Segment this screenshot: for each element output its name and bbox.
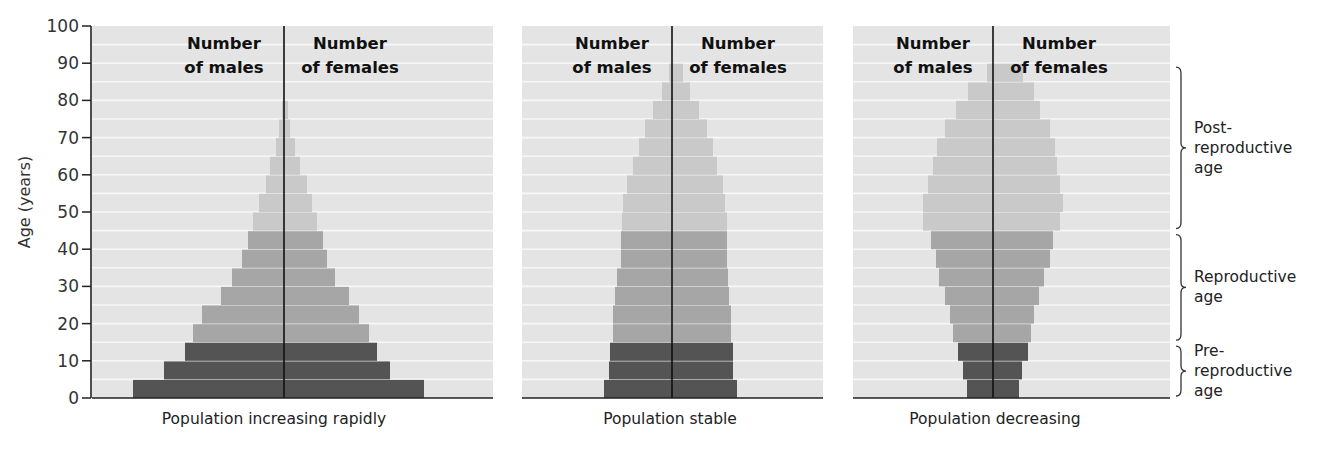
male-bar-45-49 xyxy=(923,212,993,231)
bracket-2 xyxy=(1176,235,1186,341)
bracket-label-line: Pre- xyxy=(1194,342,1224,360)
y-tick-label: 100 xyxy=(47,16,79,36)
male-bar-0-4 xyxy=(967,379,993,398)
bracket-label-line: age xyxy=(1194,159,1223,177)
male-bar-80-84 xyxy=(662,82,672,101)
female-bar-0-4 xyxy=(284,379,424,398)
female-bar-80-84 xyxy=(672,82,690,101)
male-bar-15-19 xyxy=(613,324,672,343)
female-bar-75-79 xyxy=(672,100,699,119)
female-bar-15-19 xyxy=(284,324,369,343)
bracket-3 xyxy=(1176,346,1186,396)
female-bar-20-24 xyxy=(284,305,359,324)
males-header-line2: of males xyxy=(184,58,263,77)
male-bar-55-59 xyxy=(266,175,284,194)
male-bar-75-79 xyxy=(956,100,993,119)
females-header-line2: of females xyxy=(689,58,787,77)
female-bar-30-34 xyxy=(993,268,1044,287)
female-bar-50-54 xyxy=(993,193,1063,212)
female-bar-65-69 xyxy=(672,138,713,157)
female-bar-15-19 xyxy=(672,324,731,343)
females-header-line1: Number xyxy=(701,34,776,53)
male-bar-35-39 xyxy=(621,249,672,268)
female-bar-10-14 xyxy=(993,342,1028,361)
female-bar-35-39 xyxy=(993,249,1050,268)
female-bar-0-4 xyxy=(993,379,1019,398)
male-bar-15-19 xyxy=(953,324,993,343)
female-bar-25-29 xyxy=(993,286,1039,305)
male-bar-15-19 xyxy=(193,324,284,343)
males-header-line2: of males xyxy=(893,58,972,77)
female-bar-45-49 xyxy=(993,212,1060,231)
male-bar-65-69 xyxy=(937,138,993,157)
female-bar-65-69 xyxy=(284,138,295,157)
male-bar-65-69 xyxy=(276,138,284,157)
male-bar-30-34 xyxy=(617,268,672,287)
males-header-line1: Number xyxy=(575,34,650,53)
male-bar-0-4 xyxy=(604,379,672,398)
male-bar-75-79 xyxy=(653,100,672,119)
panel-caption: Population decreasing xyxy=(909,410,1080,428)
age-stage-brackets: Post-reproductiveageReproductiveagePre-r… xyxy=(1176,67,1296,400)
female-bar-70-74 xyxy=(672,119,707,138)
males-header-line1: Number xyxy=(187,34,262,53)
bracket-label-line: Post- xyxy=(1194,119,1232,137)
male-bar-40-44 xyxy=(248,231,284,250)
male-bar-30-34 xyxy=(939,268,993,287)
male-bar-85-89 xyxy=(987,63,993,82)
females-header-line2: of females xyxy=(1010,58,1108,77)
y-tick-label: 80 xyxy=(57,90,79,110)
panel-caption: Population stable xyxy=(603,410,737,428)
y-axis-title: Age (years) xyxy=(15,156,34,249)
y-tick-label: 40 xyxy=(57,239,79,259)
female-bar-20-24 xyxy=(993,305,1034,324)
female-bar-10-14 xyxy=(672,342,733,361)
male-bar-60-64 xyxy=(270,156,284,175)
female-bar-70-74 xyxy=(284,119,290,138)
bracket-label-line: Reproductive xyxy=(1194,268,1296,286)
male-bar-70-74 xyxy=(645,119,672,138)
male-bar-20-24 xyxy=(613,305,672,324)
female-bar-5-9 xyxy=(284,361,390,380)
male-bar-50-54 xyxy=(623,193,672,212)
female-bar-45-49 xyxy=(284,212,317,231)
male-bar-40-44 xyxy=(621,231,672,250)
bracket-label-line: reproductive xyxy=(1194,139,1292,157)
male-bar-20-24 xyxy=(202,305,284,324)
female-bar-25-29 xyxy=(284,286,349,305)
female-bar-35-39 xyxy=(284,249,327,268)
y-tick-label: 0 xyxy=(68,388,79,408)
female-bar-85-89 xyxy=(672,63,683,82)
female-bar-5-9 xyxy=(993,361,1022,380)
y-axis: 0102030405060708090100Age (years) xyxy=(15,16,91,408)
male-bar-70-74 xyxy=(945,119,993,138)
female-bar-30-34 xyxy=(284,268,335,287)
pyramid-panel-3: Numberof malesNumberof femalesPopulation… xyxy=(853,26,1170,428)
female-bar-45-49 xyxy=(672,212,727,231)
female-bar-50-54 xyxy=(672,193,725,212)
bracket-label-line: reproductive xyxy=(1194,362,1292,380)
y-tick-label: 70 xyxy=(57,128,79,148)
male-bar-50-54 xyxy=(923,193,993,212)
male-bar-60-64 xyxy=(633,156,672,175)
bracket-label-line: age xyxy=(1194,382,1223,400)
females-header-line1: Number xyxy=(1022,34,1097,53)
male-bar-5-9 xyxy=(609,361,672,380)
male-bar-55-59 xyxy=(627,175,672,194)
female-bar-55-59 xyxy=(672,175,723,194)
female-bar-0-4 xyxy=(672,379,737,398)
female-bar-25-29 xyxy=(672,286,729,305)
pyramid-panel-2: Numberof malesNumberof femalesPopulation… xyxy=(522,26,823,428)
male-bar-25-29 xyxy=(945,286,993,305)
y-tick-label: 60 xyxy=(57,165,79,185)
male-bar-40-44 xyxy=(931,231,993,250)
female-bar-70-74 xyxy=(993,119,1050,138)
male-bar-45-49 xyxy=(253,212,284,231)
male-bar-10-14 xyxy=(958,342,993,361)
female-bar-60-64 xyxy=(993,156,1057,175)
male-bar-35-39 xyxy=(242,249,284,268)
male-bar-45-49 xyxy=(622,212,672,231)
female-bar-40-44 xyxy=(672,231,727,250)
females-header-line2: of females xyxy=(301,58,399,77)
females-header-line1: Number xyxy=(313,34,388,53)
